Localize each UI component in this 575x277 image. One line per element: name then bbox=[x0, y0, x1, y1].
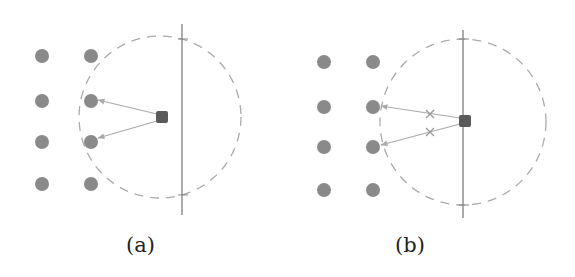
arrow bbox=[98, 100, 157, 114]
node-dot bbox=[366, 55, 380, 69]
node-dot bbox=[35, 135, 49, 149]
node-dot bbox=[84, 135, 98, 149]
agent-marker bbox=[156, 111, 168, 123]
panel-a-caption: (a) bbox=[126, 233, 155, 257]
node-dot bbox=[366, 183, 380, 197]
node-dot bbox=[84, 49, 98, 63]
node-dot bbox=[84, 94, 98, 108]
node-dot bbox=[35, 177, 49, 191]
cross-icon bbox=[426, 128, 434, 136]
agent-marker bbox=[459, 115, 471, 127]
panel-b-diagram bbox=[285, 0, 575, 277]
node-dot bbox=[35, 94, 49, 108]
arrow bbox=[98, 121, 157, 138]
node-dot bbox=[317, 55, 331, 69]
node-dot bbox=[35, 49, 49, 63]
node-dot bbox=[366, 140, 380, 154]
node-dot bbox=[317, 183, 331, 197]
node-dot bbox=[366, 100, 380, 114]
node-dot bbox=[317, 140, 331, 154]
arrow bbox=[381, 106, 460, 118]
node-dot bbox=[84, 177, 98, 191]
panel-b: (b) bbox=[285, 0, 575, 277]
node-dot bbox=[317, 100, 331, 114]
panel-b-caption: (b) bbox=[395, 233, 425, 257]
panel-a: (a) bbox=[0, 0, 290, 277]
arrow bbox=[381, 124, 460, 145]
